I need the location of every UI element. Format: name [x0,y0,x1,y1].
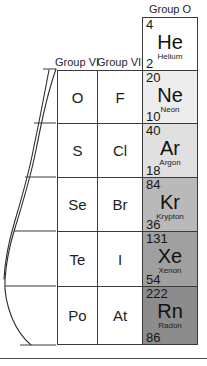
element-cell-radon[interactable]: 222 Rn Radon 86 [142,286,198,345]
krypton-atomic-number: 36 [146,218,160,232]
column-header-group-vii: Group VII [97,56,144,68]
radon-atomic-number: 86 [146,331,160,345]
argon-symbol: Ar [143,137,197,159]
element-cell-xenon[interactable]: 131 Xe Xenon 54 [142,231,198,287]
tellurium-symbol: Te [70,252,86,267]
fluorine-symbol: F [115,90,124,105]
bottom-divider [0,358,207,359]
element-cell-oxygen[interactable]: O [57,70,98,124]
column-header-group-vi: Group VI [55,56,99,68]
xenon-atomic-number: 54 [146,273,160,287]
helium-atomic-number: 2 [146,57,153,71]
element-cell-chlorine[interactable]: Cl [97,123,143,178]
radon-symbol: Rn [143,300,197,322]
bromine-symbol: Br [113,197,128,212]
chlorine-symbol: Cl [113,143,127,158]
element-cell-sulfur[interactable]: S [57,123,98,178]
helium-mass-number: 4 [146,18,153,32]
element-cell-fluorine[interactable]: F [97,70,143,124]
column-header-group-o: Group O [142,3,198,15]
element-cell-iodine[interactable]: I [97,231,143,287]
element-cell-krypton[interactable]: 84 Kr Krypton 36 [142,177,198,232]
neon-atomic-number: 10 [146,110,160,124]
xenon-mass-number: 131 [146,232,168,246]
helium-symbol: He [143,31,197,53]
selenium-symbol: Se [68,197,86,212]
argon-atomic-number: 18 [146,164,160,178]
astatine-symbol: At [113,308,127,323]
radon-element-name: Radon [143,321,197,330]
element-cell-bromine[interactable]: Br [97,177,143,232]
element-cell-neon[interactable]: 20 Ne Neon 10 [142,70,198,124]
element-cell-argon[interactable]: 40 Ar Argon 18 [142,123,198,178]
element-cell-astatine[interactable]: At [97,286,143,345]
element-cell-selenium[interactable]: Se [57,177,98,232]
polonium-symbol: Po [68,308,86,323]
iodine-symbol: I [118,252,122,267]
neon-mass-number: 20 [146,71,160,85]
element-cell-tellurium[interactable]: Te [57,231,98,287]
krypton-mass-number: 84 [146,178,160,192]
periodic-table-excerpt: Group O Group VI Group VII 4 He Helium 2… [0,0,207,366]
krypton-symbol: Kr [143,191,197,213]
oxygen-symbol: O [72,90,84,105]
argon-mass-number: 40 [146,124,160,138]
element-cell-polonium[interactable]: Po [57,286,98,345]
sulfur-symbol: S [72,143,82,158]
xenon-symbol: Xe [143,245,197,267]
neon-symbol: Ne [143,84,197,106]
element-cell-helium[interactable]: 4 He Helium 2 [142,17,198,71]
radon-mass-number: 222 [146,287,168,301]
